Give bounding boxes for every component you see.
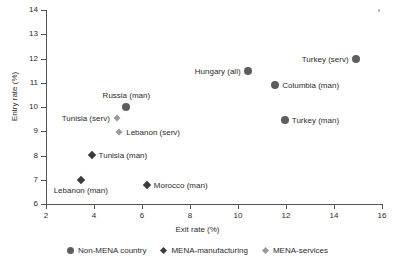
data-point-label: Columbia (man)	[282, 81, 339, 90]
chart-legend: Non-MENA countryMENA-manufacturingMENA-s…	[0, 246, 395, 255]
data-point-label: Hungary (all)	[195, 66, 241, 75]
x-tick-label-8: 8	[180, 212, 200, 220]
y-tick-label-10: 10	[22, 103, 38, 111]
data-point-marker	[244, 67, 252, 75]
y-tick-label-14: 14	[22, 6, 38, 14]
x-tick-6	[142, 204, 143, 209]
data-point-label: Russia (man)	[103, 91, 151, 100]
x-tick-16	[382, 204, 383, 209]
y-tick-label-11: 11	[22, 79, 38, 87]
data-point-label: Tunisia (serv)	[62, 113, 110, 122]
x-tick-label-16: 16	[372, 212, 392, 220]
x-tick-label-4: 4	[84, 212, 104, 220]
x-tick-label-10: 10	[228, 212, 248, 220]
legend-item-label: MENA-manufacturing	[171, 246, 247, 255]
legend-item-label: MENA-services	[273, 246, 328, 255]
y-tick-label-9: 9	[22, 127, 38, 135]
data-point-marker	[352, 55, 360, 63]
legend-item-3[interactable]: MENA-services	[262, 246, 328, 255]
x-tick-label-12: 12	[276, 212, 296, 220]
legend-item-1[interactable]: Non-MENA country	[67, 246, 146, 255]
legend-diamond-dark-icon	[160, 247, 167, 254]
y-axis-label: Entry rate (%)	[10, 42, 19, 152]
data-point-label: Morocco (man)	[154, 180, 208, 189]
x-tick-4	[94, 204, 95, 209]
data-point-label: Turkey (man)	[292, 116, 339, 125]
x-axis-line	[46, 204, 383, 205]
plot-area	[46, 10, 382, 204]
data-point-label: Turkey (serv)	[302, 54, 349, 63]
legend-diamond-light-icon	[262, 247, 269, 254]
y-tick-label-6: 6	[22, 200, 38, 208]
legend-item-label: Non-MENA country	[78, 246, 146, 255]
data-point-marker	[271, 81, 279, 89]
x-tick-12	[286, 204, 287, 209]
data-point-label: Tunisia (man)	[99, 150, 148, 159]
x-axis-label: Exit rate (%)	[0, 225, 395, 234]
x-tick-label-14: 14	[324, 212, 344, 220]
y-tick-label-13: 13	[22, 30, 38, 38]
x-tick-label-2: 2	[36, 212, 56, 220]
artifact-speck	[378, 9, 380, 12]
x-tick-14	[334, 204, 335, 209]
data-point-marker	[281, 116, 289, 124]
y-tick-label-8: 8	[22, 152, 38, 160]
data-point-marker	[122, 103, 130, 111]
y-tick-label-12: 12	[22, 55, 38, 63]
legend-circle-icon	[67, 247, 74, 254]
x-tick-2	[46, 204, 47, 209]
x-tick-label-6: 6	[132, 212, 152, 220]
y-tick-label-7: 7	[22, 176, 38, 184]
legend-item-2[interactable]: MENA-manufacturing	[160, 246, 247, 255]
x-tick-10	[238, 204, 239, 209]
data-point-label: Lebanon (man)	[54, 186, 108, 195]
scatter-chart-figure: 67891011121314 246810121416 Entry rate (…	[0, 0, 395, 266]
x-tick-8	[190, 204, 191, 209]
data-point-label: Lebanon (serv)	[126, 127, 180, 136]
